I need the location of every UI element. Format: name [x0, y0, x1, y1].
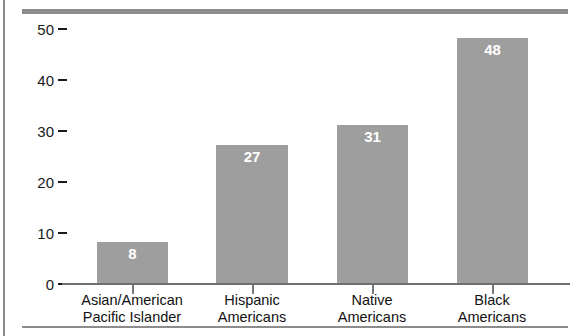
bar-value-label: 31 — [337, 129, 408, 146]
y-axis-tick-label-40: 40 — [18, 73, 54, 88]
y-axis-tick-mark-30 — [58, 130, 67, 132]
bar-value-label: 48 — [457, 42, 528, 59]
x-axis-category-label-black-americans: Black Americans — [427, 292, 557, 326]
bar-asian-american-pacific-islander[interactable]: 8 — [97, 242, 168, 283]
y-axis-tick-label-20: 20 — [18, 175, 54, 190]
plot-area: 50 40 30 20 10 0 8 27 31 48 — [0, 0, 580, 336]
y-axis-tick-label-10: 10 — [18, 226, 54, 241]
bar-hispanic-americans[interactable]: 27 — [216, 145, 288, 283]
bar-native-americans[interactable]: 31 — [337, 125, 408, 283]
x-axis-category-label-asian-american-pacific-islander: Asian/American Pacific Islander — [62, 292, 202, 326]
y-axis-tick-mark-50 — [58, 28, 67, 30]
bar-value-label: 8 — [97, 246, 168, 263]
y-axis-tick-mark-40 — [58, 79, 67, 81]
chart-figure: 50 40 30 20 10 0 8 27 31 48 — [0, 0, 580, 336]
bar-black-americans[interactable]: 48 — [457, 38, 528, 283]
y-axis-tick-label-0: 0 — [18, 277, 54, 292]
y-axis-tick-mark-10 — [58, 232, 67, 234]
x-axis-category-label-native-americans: Native Americans — [307, 292, 437, 326]
y-axis-tick-label-30: 30 — [18, 124, 54, 139]
y-axis-tick-label-50: 50 — [18, 22, 54, 37]
bar-value-label: 27 — [216, 149, 288, 166]
y-axis-tick-mark-20 — [58, 181, 67, 183]
x-axis-category-label-hispanic-americans: Hispanic Americans — [187, 292, 317, 326]
